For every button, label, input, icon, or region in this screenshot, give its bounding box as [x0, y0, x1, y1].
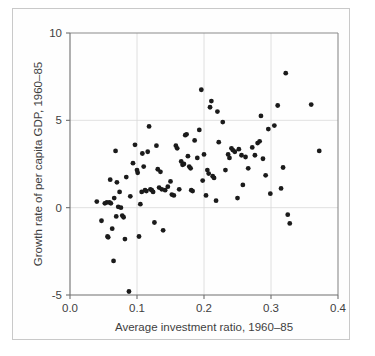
data-point	[216, 140, 221, 145]
data-point	[220, 120, 225, 125]
data-point	[121, 215, 126, 220]
data-point	[268, 191, 273, 196]
data-point	[186, 154, 191, 159]
data-point	[135, 170, 140, 175]
data-point	[108, 177, 113, 182]
data-point	[145, 149, 150, 154]
y-tick-label: -5	[52, 289, 62, 301]
x-tick-label: 0.4	[330, 302, 347, 314]
data-point	[250, 145, 255, 150]
data-point	[232, 149, 237, 154]
data-point	[317, 149, 322, 154]
data-point	[309, 102, 314, 107]
data-point	[279, 186, 284, 191]
x-tick-label: 0.0	[62, 302, 78, 314]
figure-container: -505100.00.10.20.30.4 Average investment…	[0, 0, 375, 356]
data-point	[236, 147, 241, 152]
axis-ticks: -505100.00.10.20.30.4	[49, 27, 346, 314]
data-point	[110, 226, 115, 231]
data-point	[168, 179, 173, 184]
data-point	[182, 162, 187, 167]
data-point	[223, 168, 228, 173]
data-point	[117, 190, 122, 195]
data-point	[154, 143, 159, 148]
grid-lines	[70, 33, 338, 295]
x-tick-label: 0.3	[263, 302, 279, 314]
data-point	[106, 235, 111, 240]
data-point	[137, 234, 142, 239]
data-point	[263, 173, 268, 178]
data-point	[112, 196, 117, 201]
data-point	[195, 155, 200, 160]
data-point	[240, 183, 245, 188]
data-point	[161, 228, 166, 233]
data-point	[115, 180, 120, 185]
data-point	[227, 155, 232, 160]
data-point	[212, 176, 217, 181]
data-point	[215, 109, 220, 114]
data-point	[214, 198, 219, 203]
data-point	[108, 201, 113, 206]
data-point	[285, 212, 290, 217]
data-point	[113, 149, 118, 154]
data-point	[287, 221, 292, 226]
data-point	[140, 151, 145, 156]
data-point	[246, 166, 251, 171]
data-point	[177, 187, 182, 192]
data-point	[119, 205, 124, 210]
data-point	[124, 175, 129, 180]
data-point	[235, 196, 240, 201]
y-tick-label: 10	[49, 27, 62, 39]
data-point	[158, 169, 163, 174]
data-point	[114, 214, 119, 219]
data-point	[253, 153, 258, 158]
x-tick-label: 0.2	[196, 302, 212, 314]
data-point	[111, 259, 116, 264]
data-point	[138, 202, 143, 207]
scatter-chart: -505100.00.10.20.30.4 Average investment…	[0, 0, 375, 356]
data-point	[127, 289, 132, 294]
data-point	[200, 178, 205, 183]
data-point	[133, 142, 138, 147]
data-point	[190, 189, 195, 194]
data-point	[208, 105, 213, 110]
y-tick-label: 0	[56, 202, 62, 214]
data-point	[131, 161, 136, 166]
data-point	[275, 103, 280, 108]
plot-svg: -505100.00.10.20.30.4 Average investment…	[0, 0, 375, 356]
data-point	[175, 146, 180, 151]
data-point	[209, 99, 214, 104]
data-point	[202, 152, 207, 157]
data-point	[259, 114, 264, 119]
data-point	[99, 218, 104, 223]
data-point	[243, 155, 248, 160]
x-tick-label: 0.1	[129, 302, 145, 314]
data-point	[184, 132, 189, 137]
data-point	[188, 166, 193, 171]
data-point	[123, 237, 128, 242]
data-point	[206, 171, 211, 176]
y-tick-label: 5	[56, 114, 62, 126]
y-axis-title: Growth rate of per capita GDP, 1960–85	[32, 62, 44, 266]
data-point	[94, 199, 99, 204]
data-point	[152, 220, 157, 225]
data-point	[197, 128, 202, 133]
data-points	[94, 71, 321, 294]
data-point	[171, 193, 176, 198]
data-point	[192, 138, 197, 143]
data-point	[281, 165, 286, 170]
axis-labels: Average investment ratio, 1960–85Growth …	[32, 62, 293, 333]
data-point	[128, 194, 133, 199]
data-point	[147, 124, 152, 129]
data-point	[141, 164, 146, 169]
data-point	[283, 71, 288, 76]
x-axis-title: Average investment ratio, 1960–85	[115, 321, 293, 333]
data-point	[266, 127, 271, 132]
data-point	[204, 193, 209, 198]
data-point	[151, 190, 156, 195]
data-point	[165, 184, 170, 189]
data-point	[272, 123, 277, 128]
data-point	[261, 156, 266, 161]
data-point	[257, 139, 262, 144]
data-point	[199, 87, 204, 92]
